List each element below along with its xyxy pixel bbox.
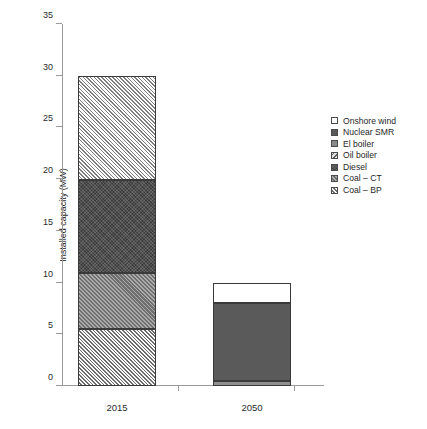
legend-swatch-oil-boiler-icon (331, 152, 338, 159)
chart-legend: Onshore wind Nuclear SMR El boiler Oil b… (331, 115, 423, 196)
legend-label-onshore-wind: Onshore wind (343, 117, 396, 126)
bar-2015[interactable] (78, 76, 156, 386)
x-tick-2015 (178, 385, 179, 391)
y-tick-10 (56, 282, 62, 283)
legend-swatch-el-boiler-icon (331, 140, 338, 147)
legend-item-oil-boiler[interactable]: Oil boiler (331, 150, 423, 162)
legend-item-diesel[interactable]: Diesel (331, 161, 423, 173)
legend-item-onshore-wind[interactable]: Onshore wind (331, 115, 423, 127)
y-tick-15 (56, 230, 62, 231)
bar-segment-2050-coal-ct[interactable] (213, 381, 291, 386)
y-tick-label-10: 10 (43, 269, 53, 278)
y-tick-20 (56, 178, 62, 179)
legend-label-nuclear-smr: Nuclear SMR (343, 128, 394, 137)
legend-swatch-coal-ct-icon (331, 175, 338, 182)
y-tick-30 (56, 75, 62, 76)
y-tick-5 (56, 333, 62, 334)
bar-2050[interactable] (213, 283, 291, 386)
x-tick-2050 (294, 385, 295, 391)
y-tick-label-15: 15 (43, 217, 53, 226)
legend-label-oil-boiler: Oil boiler (343, 151, 377, 160)
y-tick-label-0: 0 (48, 373, 53, 382)
legend-item-coal-ct[interactable]: Coal – CT (331, 173, 423, 185)
y-tick-0 (56, 385, 62, 386)
x-tick-label-2015: 2015 (106, 402, 127, 413)
legend-swatch-onshore-wind-icon (331, 117, 338, 124)
legend-item-el-boiler[interactable]: El boiler (331, 138, 423, 150)
legend-label-coal-ct: Coal – CT (343, 174, 382, 183)
legend-swatch-diesel-icon (331, 164, 338, 171)
plot-area: 0 5 10 15 20 25 30 35 2015 2050 (62, 16, 324, 391)
y-tick-label-35: 35 (43, 11, 53, 20)
bar-segment-2015-diesel[interactable] (78, 180, 156, 273)
bar-segment-2050-nuclear-smr[interactable] (213, 303, 291, 381)
legend-item-nuclear-smr[interactable]: Nuclear SMR (331, 127, 423, 139)
y-axis-line (62, 24, 63, 386)
y-tick-label-20: 20 (43, 166, 53, 175)
legend-label-diesel: Diesel (343, 163, 367, 172)
y-tick-label-30: 30 (43, 62, 53, 71)
bar-segment-2050-onshore-wind[interactable] (213, 283, 291, 304)
legend-swatch-nuclear-smr-icon (331, 129, 338, 136)
y-tick-label-25: 25 (43, 114, 53, 123)
bar-segment-2015-coal-bp[interactable] (78, 329, 156, 386)
y-tick-35 (56, 23, 62, 24)
bar-segment-2015-onshore-wind[interactable] (78, 76, 156, 179)
legend-label-coal-bp: Coal – BP (343, 186, 382, 195)
legend-item-coal-bp[interactable]: Coal – BP (331, 185, 423, 197)
y-tick-label-5: 5 (48, 321, 53, 330)
chart-figure: Installed capacity (MW) 0 5 10 15 20 25 … (0, 0, 427, 429)
y-tick-25 (56, 126, 62, 127)
x-tick-label-2050: 2050 (241, 402, 262, 413)
bar-segment-2015-coal-ct[interactable] (78, 273, 156, 330)
legend-swatch-coal-bp-icon (331, 187, 338, 194)
legend-label-el-boiler: El boiler (343, 140, 374, 149)
